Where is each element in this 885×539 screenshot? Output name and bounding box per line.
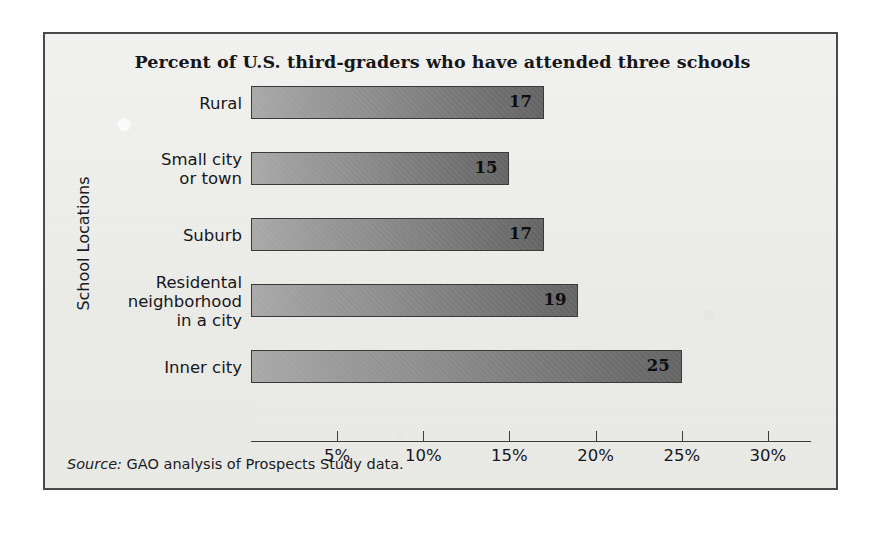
x-axis-tick bbox=[596, 431, 597, 441]
x-axis-tick bbox=[682, 431, 683, 441]
bar: 17 bbox=[251, 218, 544, 251]
bar-row: Small city or town15 bbox=[251, 152, 811, 185]
x-axis-tick-label: 10% bbox=[405, 446, 442, 465]
category-label: Suburb bbox=[0, 225, 251, 244]
bar-value-label: 17 bbox=[509, 226, 543, 243]
bar-value-label: 15 bbox=[474, 160, 508, 177]
x-axis-tick bbox=[509, 431, 510, 441]
source-note-label: Source: bbox=[67, 456, 122, 472]
x-axis-tick-label: 15% bbox=[491, 446, 528, 465]
x-axis-tick bbox=[337, 431, 338, 441]
bar: 19 bbox=[251, 284, 578, 317]
x-axis-tick-label: 25% bbox=[663, 446, 700, 465]
bar: 25 bbox=[251, 350, 682, 383]
x-axis-tick-label: 20% bbox=[577, 446, 614, 465]
source-note-text: GAO analysis of Prospects Study data. bbox=[122, 456, 404, 472]
x-axis-tick bbox=[423, 431, 424, 441]
category-label: Small city or town bbox=[0, 150, 251, 188]
bar-value-label: 17 bbox=[509, 94, 543, 111]
x-axis-tick bbox=[768, 431, 769, 441]
x-axis-tick-label: 30% bbox=[750, 446, 787, 465]
x-axis-line bbox=[251, 441, 811, 442]
chart-title: Percent of U.S. third-graders who have a… bbox=[45, 52, 840, 72]
bar-row: Inner city25 bbox=[251, 350, 811, 383]
category-label: Rural bbox=[0, 93, 251, 112]
plot-area: Rural17Small city or town15Suburb17Resid… bbox=[251, 86, 811, 426]
bar: 15 bbox=[251, 152, 509, 185]
bar-row: Residental neighborhood in a city19 bbox=[251, 284, 811, 317]
bar-row: Suburb17 bbox=[251, 218, 811, 251]
bar-row: Rural17 bbox=[251, 86, 811, 119]
category-label: Inner city bbox=[0, 357, 251, 376]
bar: 17 bbox=[251, 86, 544, 119]
category-label: Residental neighborhood in a city bbox=[0, 272, 251, 329]
source-note: Source: GAO analysis of Prospects Study … bbox=[67, 456, 404, 472]
bar-value-label: 25 bbox=[647, 358, 681, 375]
page-background: Percent of U.S. third-graders who have a… bbox=[0, 0, 885, 539]
bar-value-label: 19 bbox=[543, 292, 577, 309]
figure-frame: Percent of U.S. third-graders who have a… bbox=[43, 32, 838, 490]
